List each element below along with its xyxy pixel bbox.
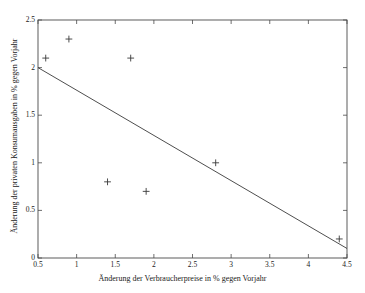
x-tick-label: 3 — [229, 261, 233, 269]
x-tick-label: 2.5 — [188, 261, 197, 269]
data-point — [212, 159, 219, 166]
x-tick-label: 4 — [307, 261, 311, 269]
axes-frame — [38, 20, 347, 258]
data-point — [104, 178, 111, 185]
x-tick-label: 1 — [75, 261, 79, 269]
x-tick-label: 2 — [152, 261, 156, 269]
y-axis-label-container: Änderung der privaten Konsumausgaben in … — [0, 0, 18, 293]
data-point — [66, 36, 73, 43]
data-point — [42, 55, 49, 62]
data-point — [336, 236, 343, 243]
data-point — [127, 55, 134, 62]
x-tick-label: 1.5 — [111, 261, 120, 269]
data-point — [143, 188, 150, 195]
scatter-plot-figure: 0.511.522.533.544.5 00.511.522.5 Änderun… — [0, 0, 365, 293]
data-point-markers — [42, 36, 342, 243]
x-tick-label: 4.5 — [342, 261, 351, 269]
y-axis-label: Änderung der privaten Konsumausgaben in … — [11, 16, 19, 256]
plot-canvas — [0, 0, 365, 293]
regression-line — [38, 68, 347, 249]
x-axis-label: Änderung der Verbraucherpreise in % gege… — [0, 275, 365, 283]
tick-marks — [38, 20, 347, 258]
x-tick-label: 3.5 — [265, 261, 274, 269]
